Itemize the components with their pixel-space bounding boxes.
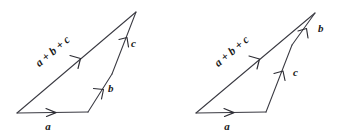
right-label-vector-a: a [224, 120, 230, 132]
right-label-resultant: a + b + c [212, 33, 251, 69]
right-label-vector-b: b [318, 22, 324, 34]
left-label-vector-b: b [108, 82, 114, 94]
vector-triangle-left: a b c a + b + c [17, 12, 136, 132]
left-label-resultant: a + b + c [33, 33, 72, 69]
right-label-vector-c: c [293, 66, 298, 78]
left-label-vector-c: c [131, 37, 136, 49]
figure-canvas: a b c a + b + c a c b a + b + c [0, 0, 338, 135]
left-vector-a-line [17, 112, 88, 113]
vector-triangle-right: a c b a + b + c [196, 13, 324, 132]
right-vector-c-arrowhead [274, 71, 285, 81]
left-label-vector-a: a [45, 120, 51, 132]
vector-addition-figure: a b c a + b + c a c b a + b + c [0, 0, 338, 135]
right-vector-c-line [266, 45, 292, 112]
right-vector-b-arrowhead [298, 29, 308, 39]
right-vector-a-line [196, 112, 266, 113]
